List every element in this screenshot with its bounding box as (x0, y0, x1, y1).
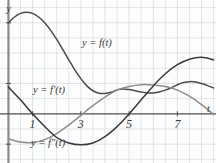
x-tick-label-5: 5 (126, 118, 132, 130)
curve-label-f: y = f(t) (82, 38, 112, 49)
y-axis-label: y (6, 4, 10, 14)
x-tick-label-7: 7 (174, 118, 180, 130)
x-tick-label-3: 3 (78, 118, 84, 130)
function-graph-figure: 3 1 -1 1 3 5 7 y t y = f(t) y = f'(t) y … (0, 0, 216, 163)
curve-label-f-double-prime: y = f″(t) (31, 138, 65, 149)
curve-lines (8, 12, 213, 145)
curve-series-2 (8, 57, 213, 144)
curve-label-f-prime: y = f'(t) (33, 85, 65, 96)
y-tick-label-1: 1 (0, 77, 1, 89)
t-axis-label: t (207, 104, 210, 114)
x-tick-label-1: 1 (30, 118, 36, 130)
